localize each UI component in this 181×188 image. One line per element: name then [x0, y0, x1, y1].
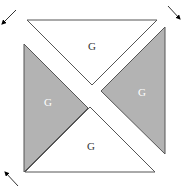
piece-label: G — [138, 86, 146, 98]
arrow-bottom-left-icon — [5, 172, 18, 186]
puzzle-diagram: GGGG — [0, 0, 181, 188]
piece-label: G — [88, 40, 96, 52]
piece-label: G — [87, 140, 95, 152]
arrow-top-right-icon — [168, 6, 180, 19]
arrow-top-left-icon — [2, 10, 16, 24]
piece-label: G — [44, 96, 52, 108]
